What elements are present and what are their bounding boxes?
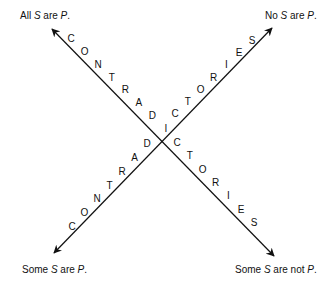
letter-nw-4: R: [122, 84, 129, 95]
label-all-s-are-p: All S are P.: [20, 10, 70, 21]
letter-nw-0: C: [67, 33, 74, 44]
letter-se-5: E: [238, 204, 245, 215]
letter-nw-3: T: [109, 72, 115, 83]
letter-ne-2: O: [197, 84, 205, 95]
letter-ne-6: S: [249, 35, 256, 46]
letter-ne-3: R: [210, 72, 217, 83]
letter-sw-5: A: [131, 152, 138, 163]
letter-se-6: S: [251, 217, 258, 228]
letter-sw-3: T: [106, 180, 112, 191]
contradictory-line-some-to-no: [54, 28, 272, 253]
letter-sw-0: C: [68, 221, 75, 232]
letter-sw-6: D: [143, 138, 150, 149]
letter-nw-6: D: [149, 110, 156, 121]
letter-sw-4: R: [118, 166, 125, 177]
contradictory-line-all-to-some-not: [52, 29, 274, 256]
letter-ne-1: T: [185, 96, 191, 107]
letter-ne-4: I: [225, 59, 228, 70]
letter-nw-7: I: [165, 123, 168, 134]
letter-sw-2: N: [93, 193, 100, 204]
letter-se-4: I: [227, 190, 230, 201]
label-no-s-are-p: No S are P.: [265, 10, 317, 21]
diagram-canvas: CONTRADICTORIESCONTRADCTORIES: [0, 0, 335, 284]
letter-se-1: T: [187, 150, 193, 161]
letter-se-0: C: [173, 137, 180, 148]
letter-ne-0: C: [171, 108, 178, 119]
letter-sw-1: O: [81, 207, 89, 218]
label-some-s-are-not-p: Some S are not P.: [235, 264, 317, 275]
letter-nw-1: O: [81, 46, 89, 57]
letter-ne-5: E: [236, 47, 243, 58]
letter-nw-2: N: [94, 59, 101, 70]
letter-se-2: O: [199, 164, 207, 175]
label-some-s-are-p: Some S are P.: [22, 264, 87, 275]
letter-nw-5: A: [136, 97, 143, 108]
letter-se-3: R: [212, 177, 219, 188]
